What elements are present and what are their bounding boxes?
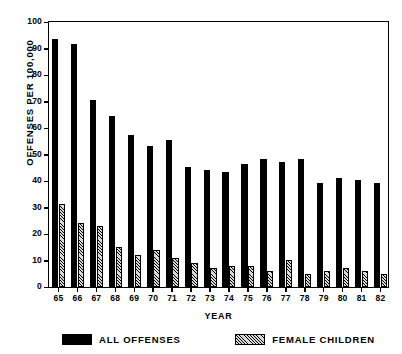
x-tick-mark [190,287,192,292]
bar-all-offenses [298,159,304,287]
y-tick-label: 90 [16,43,42,53]
x-tick-mark [342,287,344,292]
bar-all-offenses [147,146,153,288]
bar-group [352,22,371,287]
x-tick-mark [96,287,98,292]
x-tick-mark [134,287,136,292]
plot-area: 0102030405060708090100 65666768697071727… [48,21,389,288]
y-tick-label: 40 [16,175,42,185]
bar-female-children [362,271,368,287]
bar-group [87,22,106,287]
bar-group [163,22,182,287]
bar-all-offenses [185,167,191,287]
bar-female-children [286,260,292,287]
y-tick-label: 70 [16,96,42,106]
bar-group [49,22,68,287]
legend-swatch-female-children [235,334,265,345]
bar-female-children [59,204,65,287]
x-tick-mark [152,287,154,292]
x-tick-mark [209,287,211,292]
bar-all-offenses [128,135,134,287]
bar-group [295,22,314,287]
bar-all-offenses [166,140,172,287]
bar-female-children [78,223,84,287]
bar-all-offenses [52,39,58,287]
bar-all-offenses [279,162,285,287]
bar-all-offenses [374,183,380,287]
bar-female-children [153,250,159,287]
bar-female-children [324,271,330,287]
x-tick-mark [77,287,79,292]
bar-all-offenses [355,180,361,287]
bar-group [314,22,333,287]
bar-group [125,22,144,287]
bar-chart-figure: OFFENSES PER 100,000 0102030405060708090… [0,0,402,354]
bar-female-children [97,226,103,287]
y-tick-label: 50 [16,149,42,159]
bar-female-children [267,271,273,287]
bar-all-offenses [317,183,323,287]
bar-female-children [135,255,141,287]
x-tick-mark [285,287,287,292]
x-tick-label: 82 [369,293,393,303]
bar-all-offenses [241,164,247,287]
bar-all-offenses [222,172,228,287]
bar-group [371,22,390,287]
bar-female-children [343,268,349,287]
legend-swatch-all-offenses [62,334,92,345]
bar-group [201,22,220,287]
chart-legend: ALL OFFENSESFEMALE CHILDREN [48,330,389,348]
bar-female-children [210,268,216,287]
bar-all-offenses [109,116,115,287]
y-tick-label: 0 [16,281,42,291]
x-tick-mark [247,287,249,292]
bar-all-offenses [204,170,210,287]
x-tick-mark [115,287,117,292]
legend-entry: FEMALE CHILDREN [235,334,375,345]
y-tick-label: 100 [16,16,42,26]
chart-title [0,0,402,4]
bar-female-children [248,266,254,287]
bar-group [182,22,201,287]
bar-group [276,22,295,287]
x-tick-mark [58,287,60,292]
x-axis-title: YEAR [48,311,389,321]
bar-all-offenses [336,178,342,287]
bar-group [333,22,352,287]
y-tick-label: 80 [16,69,42,79]
bar-female-children [381,274,387,287]
bar-group [220,22,239,287]
bar-group [106,22,125,287]
x-tick-mark [228,287,230,292]
bar-all-offenses [260,159,266,287]
x-tick-mark [361,287,363,292]
bar-all-offenses [71,44,77,287]
y-tick-label: 20 [16,228,42,238]
x-tick-mark [304,287,306,292]
y-tick-label: 30 [16,202,42,212]
bar-group [144,22,163,287]
legend-label: ALL OFFENSES [99,334,181,345]
bar-all-offenses [90,100,96,287]
bar-female-children [116,247,122,287]
y-tick-label: 60 [16,122,42,132]
bar-group [238,22,257,287]
x-tick-mark [323,287,325,292]
x-tick-mark [171,287,173,292]
bar-female-children [172,258,178,287]
bar-female-children [229,266,235,287]
y-tick-label: 10 [16,255,42,265]
legend-label: FEMALE CHILDREN [272,334,375,345]
legend-entry: ALL OFFENSES [62,334,181,345]
bar-group [257,22,276,287]
bar-female-children [191,263,197,287]
bar-group [68,22,87,287]
x-tick-mark [380,287,382,292]
bar-female-children [305,274,311,287]
x-tick-mark [266,287,268,292]
